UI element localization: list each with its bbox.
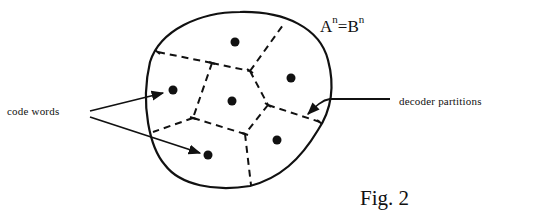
set-label: An=Bn	[320, 15, 364, 37]
code-word-dot	[204, 151, 213, 160]
arrow-code-words-lower	[90, 117, 200, 153]
code-words	[169, 38, 296, 160]
arrow-decoder-partitions	[308, 99, 390, 114]
set-exponent-right: n	[359, 13, 365, 25]
code-word-dot	[287, 74, 296, 83]
code-word-dot	[169, 86, 178, 95]
code-word-dot	[228, 97, 237, 106]
code-word-dot	[231, 38, 240, 47]
set-region	[146, 12, 332, 188]
annotation-arrows	[90, 93, 390, 153]
arrow-code-words-upper	[90, 93, 163, 111]
decoder-partitions-label: decoder partitions	[399, 95, 482, 107]
diagram-canvas	[0, 0, 534, 215]
code-words-label: code words	[7, 105, 59, 117]
figure-caption: Fig. 2	[360, 186, 409, 211]
code-word-dot	[273, 136, 282, 145]
